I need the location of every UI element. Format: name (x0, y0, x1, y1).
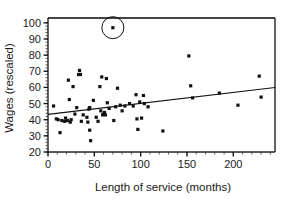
data-point (66, 119, 69, 122)
data-point (104, 113, 107, 116)
data-point (86, 121, 89, 124)
data-point (99, 109, 102, 112)
data-point (105, 77, 108, 80)
data-point (189, 84, 192, 87)
data-point (191, 96, 194, 99)
data-point (140, 117, 143, 120)
y-tick-label: 50 (29, 98, 41, 110)
figure-background (0, 0, 286, 202)
data-point (95, 116, 98, 119)
data-point (121, 109, 124, 112)
data-point (88, 129, 91, 132)
y-tick-label: 80 (29, 49, 41, 61)
y-tick-label: 40 (29, 114, 41, 126)
y-tick-label: 60 (29, 81, 41, 93)
data-point (80, 120, 83, 123)
data-point (68, 98, 71, 101)
data-point (128, 102, 131, 105)
data-point (67, 79, 70, 82)
data-point (187, 54, 190, 57)
y-tick-label: 30 (29, 130, 41, 142)
data-point (119, 104, 122, 107)
data-point (78, 69, 81, 72)
data-point (89, 139, 92, 142)
data-point (63, 120, 66, 123)
data-point (79, 73, 82, 76)
y-tick-label: 90 (29, 33, 41, 45)
x-tick-label: 150 (178, 158, 196, 170)
y-tick-label: 20 (29, 146, 41, 158)
data-point (112, 119, 115, 122)
data-point (218, 91, 221, 94)
chart-canvas: 2030405060708090100 050100150200 Length … (0, 0, 286, 202)
x-tick-label: 200 (224, 158, 242, 170)
scatter-plot-figure: 2030405060708090100 050100150200 Length … (0, 0, 286, 202)
data-point (123, 104, 126, 107)
data-point (52, 104, 55, 107)
data-point (114, 105, 117, 108)
x-axis-title: Length of service (months) (95, 181, 231, 193)
data-point (258, 75, 261, 78)
data-point (75, 106, 78, 109)
data-point (135, 117, 138, 120)
data-point (85, 116, 88, 119)
data-point (142, 94, 145, 97)
x-tick-label: 0 (45, 158, 51, 170)
data-point (58, 131, 61, 134)
data-point (111, 26, 114, 29)
data-point (70, 118, 73, 121)
x-tick-label: 100 (131, 158, 149, 170)
data-point (88, 106, 91, 109)
data-point (57, 118, 60, 121)
data-point (116, 87, 119, 90)
data-point (60, 119, 63, 122)
data-point (260, 96, 263, 99)
data-point (134, 93, 137, 96)
data-point (146, 105, 149, 108)
data-point (82, 113, 85, 116)
y-tick-label: 100 (23, 17, 41, 29)
x-tick-label: 50 (88, 158, 100, 170)
data-point (143, 102, 146, 105)
data-point (71, 85, 74, 88)
data-point (108, 107, 111, 110)
data-point (96, 120, 99, 123)
data-point (73, 112, 76, 115)
data-point (161, 129, 164, 132)
data-point (236, 104, 239, 107)
data-point (106, 101, 109, 104)
data-point (100, 75, 103, 78)
data-point (98, 85, 101, 88)
y-axis-title: Wages (rescaled) (3, 43, 15, 133)
data-point (92, 99, 95, 102)
y-tick-label: 70 (29, 65, 41, 77)
data-point (138, 100, 141, 103)
data-point (136, 128, 139, 131)
data-point (132, 104, 135, 107)
